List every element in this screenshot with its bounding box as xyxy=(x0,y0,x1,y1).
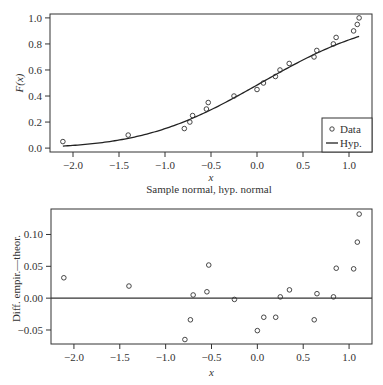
x-tick-label: 0.0 xyxy=(250,351,264,363)
x-tick-label: 0.5 xyxy=(296,351,310,363)
bottom-y-axis-ticks: −0.050.000.050.10 xyxy=(18,228,51,336)
data-point-marker xyxy=(315,48,320,53)
data-point-marker xyxy=(62,275,67,280)
top-x-axis-label: x xyxy=(208,171,214,183)
y-tick-label: 0.4 xyxy=(28,90,42,102)
data-point-marker xyxy=(191,293,196,298)
data-point-marker xyxy=(205,289,210,294)
legend-hyp-label: Hyp. xyxy=(340,137,362,149)
x-tick-label: 1.0 xyxy=(342,351,356,363)
data-point-marker xyxy=(312,318,317,323)
data-point-marker xyxy=(204,107,209,112)
data-point-marker xyxy=(334,35,339,40)
chart-canvas: −2.0−1.5−1.0−0.50.00.51.0 0.00.20.40.60.… xyxy=(0,0,383,385)
bottom-x-axis-ticks: −2.0−1.5−1.0−0.50.00.51.0 xyxy=(64,344,357,363)
data-point-marker xyxy=(188,120,193,125)
data-point-marker xyxy=(261,315,266,320)
bottom-panel-differences: −2.0−1.5−1.0−0.50.00.51.0 −0.050.000.050… xyxy=(10,209,372,378)
x-tick-label: −1.5 xyxy=(110,351,130,363)
difference-points xyxy=(62,212,362,342)
x-tick-label: −2.0 xyxy=(64,351,84,363)
bottom-x-axis-label: x xyxy=(208,366,214,378)
data-point-marker xyxy=(127,284,132,289)
legend: Data Hyp. xyxy=(322,118,372,152)
y-tick-label: 1.0 xyxy=(28,12,42,24)
data-point-marker xyxy=(126,133,131,138)
x-tick-label: 0.0 xyxy=(250,159,264,171)
x-tick-label: −1.0 xyxy=(156,351,176,363)
y-tick-label: 0.6 xyxy=(28,64,42,76)
y-tick-label: 0.05 xyxy=(24,260,44,272)
data-points xyxy=(61,16,362,144)
top-x-axis-ticks: −2.0−1.5−1.0−0.50.00.51.0 xyxy=(63,152,356,171)
x-tick-label: 0.5 xyxy=(296,159,310,171)
data-point-marker xyxy=(315,291,320,296)
y-tick-label: 0.10 xyxy=(24,228,44,240)
x-tick-label: −2.0 xyxy=(63,159,83,171)
top-y-axis-label: F(x) xyxy=(13,73,26,93)
data-point-marker xyxy=(273,315,278,320)
bottom-y-axis-label: Diff. empir.—theor. xyxy=(10,235,22,322)
chart-figure: −2.0−1.5−1.0−0.50.00.51.0 0.00.20.40.60.… xyxy=(0,0,383,385)
data-point-marker xyxy=(351,267,356,272)
data-point-marker xyxy=(312,55,317,60)
data-point-marker xyxy=(182,126,187,131)
bottom-plot-frame xyxy=(51,209,372,344)
data-point-marker xyxy=(206,100,211,105)
y-tick-label: 0.00 xyxy=(24,292,44,304)
x-tick-label: −1.0 xyxy=(155,159,175,171)
data-point-marker xyxy=(190,113,195,118)
data-point-marker xyxy=(357,16,362,21)
top-panel-caption: Sample normal, hyp. normal xyxy=(146,183,272,195)
x-tick-label: −0.5 xyxy=(201,159,221,171)
data-point-marker xyxy=(61,139,66,144)
legend-data-label: Data xyxy=(340,123,361,135)
y-tick-label: 0.0 xyxy=(28,142,42,154)
data-point-marker xyxy=(287,61,292,66)
hypothesis-cdf-line xyxy=(63,36,359,146)
data-point-marker xyxy=(351,29,356,34)
x-tick-label: −1.5 xyxy=(109,159,129,171)
y-tick-label: 0.8 xyxy=(28,38,42,50)
data-point-marker xyxy=(206,263,211,268)
data-point-marker xyxy=(255,87,260,92)
data-point-marker xyxy=(188,318,193,323)
x-tick-label: 1.0 xyxy=(342,159,356,171)
top-panel-ecdf: −2.0−1.5−1.0−0.50.00.51.0 0.00.20.40.60.… xyxy=(13,12,372,195)
data-point-marker xyxy=(355,240,360,245)
data-point-marker xyxy=(183,337,188,342)
y-tick-label: 0.2 xyxy=(28,116,42,128)
data-point-marker xyxy=(357,212,362,217)
y-tick-label: −0.05 xyxy=(18,324,44,336)
top-y-axis-ticks: 0.00.20.40.60.81.0 xyxy=(28,12,50,154)
data-point-marker xyxy=(355,22,360,27)
x-tick-label: −0.5 xyxy=(202,351,222,363)
data-point-marker xyxy=(287,288,292,293)
data-point-marker xyxy=(255,328,260,333)
data-point-marker xyxy=(334,266,339,271)
